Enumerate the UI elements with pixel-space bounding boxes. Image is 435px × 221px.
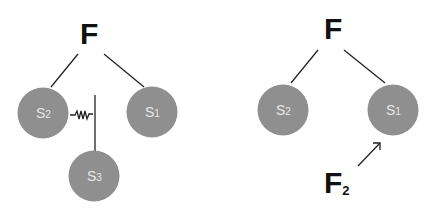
right-diagram: F S2 S1 F2 xyxy=(258,12,419,199)
right-force-label: F xyxy=(324,12,342,45)
left-force-label: F xyxy=(80,17,98,50)
left-link-f-s1 xyxy=(104,54,144,87)
diagram-canvas: F S2 S1 S3 F S2 S1 F2 xyxy=(0,0,435,221)
right-link-f-s1 xyxy=(344,50,385,83)
force-arrow-icon xyxy=(358,143,380,166)
applied-force-label: F2 xyxy=(324,166,350,199)
spring-icon xyxy=(70,111,93,119)
left-diagram: F S2 S1 S3 xyxy=(18,17,178,202)
right-link-f-s2 xyxy=(291,50,318,83)
left-link-f-s2 xyxy=(51,54,78,87)
